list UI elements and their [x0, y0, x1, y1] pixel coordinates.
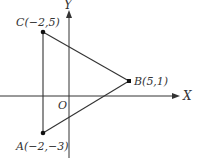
- edge-bc: [43, 32, 129, 81]
- point-b-label: B(5,1): [133, 75, 168, 88]
- point-a: [41, 131, 46, 136]
- point-c-label: C(−2,5): [16, 16, 60, 29]
- coordinate-diagram: X Y O C(−2,5) B(5,1) A(−2,−3): [0, 0, 197, 160]
- triangle-abc: [43, 32, 129, 133]
- x-axis-arrow-icon: [172, 93, 180, 99]
- y-axis-label: Y: [64, 0, 73, 12]
- origin-label: O: [58, 99, 67, 112]
- y-axis: [66, 10, 72, 158]
- x-axis: [0, 93, 180, 99]
- edge-ab: [43, 81, 129, 133]
- x-axis-label: X: [182, 89, 192, 103]
- point-b: [127, 79, 131, 83]
- point-a-label: A(−2,−3): [15, 140, 68, 153]
- point-c: [41, 30, 46, 35]
